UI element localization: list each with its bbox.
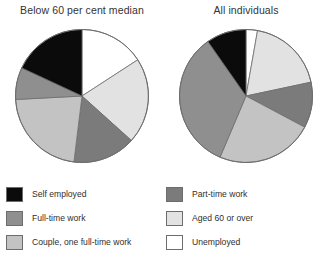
legend-item-couple-one-full-time-work[interactable]: Couple, one full-time work: [6, 230, 170, 254]
pie-left-wrapper: [14, 26, 150, 166]
legend-swatch-aged-60-or-over: [166, 211, 183, 226]
legend-item-unemployed[interactable]: Unemployed: [166, 230, 328, 254]
pie-right-slices: [180, 30, 313, 163]
legend-swatch-couple-one-full-time-work: [6, 235, 23, 250]
legend-swatch-part-time-work: [166, 187, 183, 202]
legend-item-part-time-work[interactable]: Part-time work: [166, 182, 328, 206]
pie-right-wrapper: [178, 26, 314, 166]
pie-slice-couple-one-full-time-work[interactable]: [16, 96, 82, 162]
charts-row: Below 60 per cent median All individuals: [0, 0, 328, 178]
legend-item-aged-60-or-over[interactable]: Aged 60 or over: [166, 206, 328, 230]
legend-swatch-unemployed: [166, 235, 183, 250]
legend-column-left: Self employed Full-time work Couple, one…: [6, 182, 170, 254]
pie-left-slices: [15, 30, 148, 163]
pie-chart-figure: Below 60 per cent median All individuals: [0, 0, 328, 270]
chart-title-right: All individuals: [164, 4, 328, 17]
legend-swatch-self-employed: [6, 187, 23, 202]
chart-panel-all-individuals: All individuals: [164, 0, 328, 178]
legend-label-unemployed: Unemployed: [192, 237, 240, 248]
chart-panel-below-60-per-cent-median: Below 60 per cent median: [0, 0, 164, 178]
legend-swatch-full-time-work: [6, 211, 23, 226]
legend-label-couple-one-full-time-work: Couple, one full-time work: [32, 237, 131, 248]
chart-title-left: Below 60 per cent median: [0, 4, 164, 17]
legend-item-self-employed[interactable]: Self employed: [6, 182, 170, 206]
legend-item-full-time-work[interactable]: Full-time work: [6, 206, 170, 230]
legend-label-self-employed: Self employed: [32, 189, 86, 200]
legend: Self employed Full-time work Couple, one…: [0, 182, 328, 270]
pie-right-svg: [178, 26, 314, 166]
pie-left-svg: [14, 26, 150, 166]
legend-label-full-time-work: Full-time work: [32, 213, 85, 224]
legend-label-aged-60-or-over: Aged 60 or over: [192, 213, 253, 224]
legend-label-part-time-work: Part-time work: [192, 189, 247, 200]
legend-column-right: Part-time work Aged 60 or over Unemploye…: [166, 182, 328, 254]
